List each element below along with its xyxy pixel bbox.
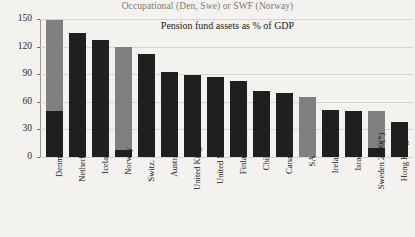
bar-group bbox=[41, 19, 413, 157]
y-tick-label-0: 0 bbox=[0, 151, 32, 161]
bar-segment-dark bbox=[253, 91, 270, 157]
x-label-slot: Canada bbox=[273, 159, 296, 235]
plot-area bbox=[40, 19, 413, 157]
x-label-slot: United States bbox=[204, 159, 227, 235]
y-tick-mark-0 bbox=[37, 157, 40, 158]
x-label-slot: Finland bbox=[227, 159, 250, 235]
bar-slot bbox=[158, 19, 181, 157]
x-tick-label: Norway bbox=[124, 147, 133, 175]
x-tick-label: Australia bbox=[170, 145, 179, 177]
bar-segment-dark bbox=[92, 40, 109, 157]
x-label-slot: Sweden 2009(*) bbox=[365, 159, 388, 235]
bar-segment-gray bbox=[115, 47, 132, 150]
x-tick-label: Switz. 2009 bbox=[147, 140, 156, 181]
bar-segment-dark bbox=[345, 111, 362, 157]
bar-segment-dark bbox=[69, 33, 86, 157]
x-label-slot: Hong Kong bbox=[388, 159, 411, 235]
x-axis-labels: DenmarkNetherlandsIcelandNorwaySwitz. 20… bbox=[41, 159, 413, 235]
bar-slot bbox=[319, 19, 342, 157]
y-tick-label-60: 60 bbox=[0, 96, 32, 106]
x-tick-label: Ireland bbox=[331, 149, 340, 173]
bar-segment-dark bbox=[230, 81, 247, 157]
x-label-slot: Denmark bbox=[43, 159, 66, 235]
x-tick-label: United States bbox=[216, 138, 225, 184]
x-label-slot: Ireland bbox=[319, 159, 342, 235]
x-tick-label: United Kingdom bbox=[193, 132, 202, 190]
bar-iceland[interactable] bbox=[92, 40, 109, 157]
x-label-slot: Israel bbox=[342, 159, 365, 235]
bar-netherlands[interactable] bbox=[69, 33, 86, 157]
bar-slot bbox=[89, 19, 112, 157]
x-tick-label: Netherlands bbox=[78, 140, 87, 182]
x-label-slot: Switz. 2009 bbox=[135, 159, 158, 235]
bar-israel[interactable] bbox=[345, 111, 362, 157]
y-tick-label-30: 30 bbox=[0, 123, 32, 133]
x-label-slot: Norway bbox=[112, 159, 135, 235]
bar-denmark[interactable] bbox=[46, 20, 63, 157]
x-label-slot: Australia bbox=[158, 159, 181, 235]
bar-slot bbox=[296, 19, 319, 157]
bar-slot bbox=[204, 19, 227, 157]
bar-segment-gray bbox=[299, 97, 316, 157]
x-tick-label: Finland bbox=[239, 148, 248, 174]
x-tick-label: Hong Kong bbox=[400, 141, 409, 181]
bar-sa[interactable] bbox=[299, 97, 316, 157]
bar-finland[interactable] bbox=[230, 81, 247, 157]
x-label-slot: Netherlands bbox=[66, 159, 89, 235]
bar-chile[interactable] bbox=[253, 91, 270, 157]
bar-slot bbox=[388, 19, 411, 157]
bar-segment-gray bbox=[46, 20, 63, 111]
y-tick-mark-150 bbox=[37, 19, 40, 20]
bar-norway[interactable] bbox=[115, 47, 132, 157]
x-label-slot: SA bbox=[296, 159, 319, 235]
bar-slot bbox=[342, 19, 365, 157]
bar-slot bbox=[250, 19, 273, 157]
y-tick-label-120: 120 bbox=[0, 41, 32, 51]
x-label-slot: United Kingdom bbox=[181, 159, 204, 235]
bar-slot bbox=[227, 19, 250, 157]
x-label-slot: Iceland bbox=[89, 159, 112, 235]
x-tick-label: Israel bbox=[354, 151, 363, 170]
x-tick-label: Chile bbox=[262, 152, 271, 171]
y-tick-mark-60 bbox=[37, 102, 40, 103]
x-tick-label: Canada bbox=[285, 148, 294, 174]
y-tick-mark-120 bbox=[37, 47, 40, 48]
x-label-slot: Chile bbox=[250, 159, 273, 235]
pension-fund-assets-chart: Occupational (Den, Swe) or SWF (Norway) … bbox=[0, 0, 415, 237]
y-tick-label-150: 150 bbox=[0, 13, 32, 23]
x-tick-label: SA bbox=[308, 156, 317, 167]
y-tick-mark-30 bbox=[37, 129, 40, 130]
bar-slot bbox=[43, 19, 66, 157]
x-tick-label: Sweden 2009(*) bbox=[377, 133, 386, 190]
bar-slot bbox=[273, 19, 296, 157]
bar-slot bbox=[135, 19, 158, 157]
x-tick-label: Denmark bbox=[55, 145, 64, 177]
bar-slot bbox=[66, 19, 89, 157]
y-tick-label-90: 90 bbox=[0, 68, 32, 78]
x-tick-label: Iceland bbox=[101, 148, 110, 173]
chart-subtitle: Occupational (Den, Swe) or SWF (Norway) bbox=[0, 1, 415, 11]
y-tick-mark-90 bbox=[37, 74, 40, 75]
bar-slot bbox=[112, 19, 135, 157]
